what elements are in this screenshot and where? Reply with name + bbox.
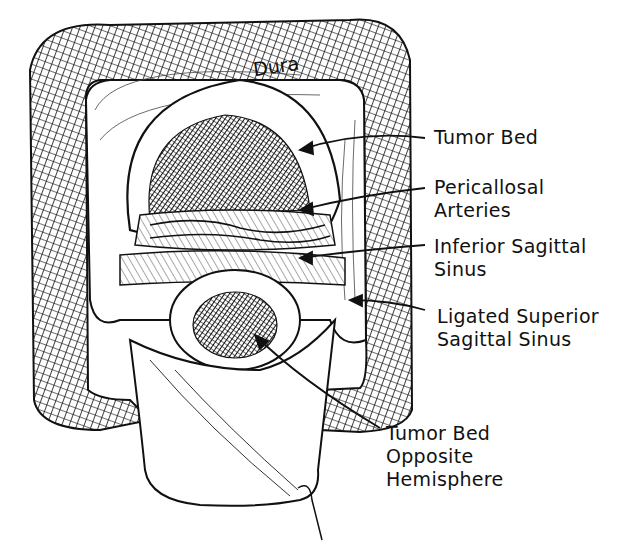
opposite-tumor-bed (170, 270, 300, 370)
label-ligated-superior-sagittal-sinus: Ligated Superior Sagittal Sinus (437, 305, 599, 351)
label-line: Tumor Bed (434, 126, 538, 149)
label-line: Hemisphere (386, 468, 504, 491)
label-line: Opposite (386, 445, 504, 468)
label-line: Pericallosal (434, 176, 544, 199)
label-line: Arteries (434, 199, 544, 222)
label-line: Inferior Sagittal (434, 235, 587, 258)
label-line: Ligated Superior (437, 305, 599, 328)
label-pericallosal-arteries: Pericallosal Arteries (434, 176, 544, 222)
label-line: Sinus (434, 258, 587, 281)
label-tumor-bed: Tumor Bed (434, 126, 538, 149)
label-inferior-sagittal-sinus: Inferior Sagittal Sinus (434, 235, 587, 281)
label-line: Tumor Bed (386, 422, 504, 445)
pericallosal-arteries (135, 210, 335, 250)
label-tumor-bed-opposite-hemisphere: Tumor Bed Opposite Hemisphere (386, 422, 504, 491)
label-line: Sagittal Sinus (437, 328, 599, 351)
